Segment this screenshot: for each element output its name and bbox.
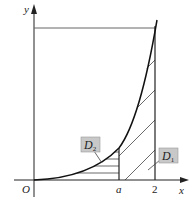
d1-label: D1 — [148, 148, 178, 170]
y-axis-arrow-icon — [31, 4, 37, 14]
d1-hatching — [110, 50, 165, 180]
x-axis-label: x — [178, 184, 184, 196]
tick-label-a: a — [116, 183, 122, 195]
origin-label: O — [22, 183, 30, 195]
diagram-canvas: D2 D1 y x O a 2 — [0, 0, 192, 205]
function-curve — [34, 20, 157, 180]
y-axis-label: y — [23, 3, 29, 15]
x-axis-arrow-icon — [180, 177, 189, 183]
d1-leader-line — [148, 160, 160, 170]
d2-label: D2 — [81, 137, 102, 163]
tick-label-2: 2 — [152, 183, 158, 195]
